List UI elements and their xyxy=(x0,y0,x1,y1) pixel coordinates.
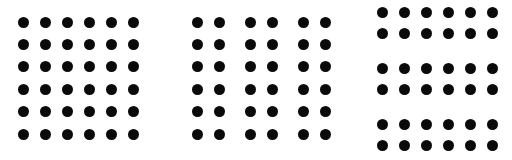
dot xyxy=(399,119,410,130)
dot xyxy=(465,140,476,151)
dot xyxy=(377,7,388,18)
dot xyxy=(465,28,476,39)
dot xyxy=(465,84,476,95)
dot xyxy=(377,28,388,39)
dot xyxy=(421,119,432,130)
dot xyxy=(421,28,432,39)
dot xyxy=(443,28,454,39)
dot xyxy=(399,63,410,74)
dot xyxy=(443,140,454,151)
panel-row-grouped-grid xyxy=(0,0,512,160)
dot xyxy=(443,119,454,130)
dot-grid-figure xyxy=(0,0,512,160)
dot xyxy=(421,84,432,95)
dot xyxy=(399,84,410,95)
dot xyxy=(421,140,432,151)
dot xyxy=(377,84,388,95)
dot xyxy=(399,140,410,151)
dot xyxy=(487,140,498,151)
dot xyxy=(487,28,498,39)
dot xyxy=(399,7,410,18)
dot xyxy=(487,63,498,74)
dot xyxy=(487,7,498,18)
dot xyxy=(399,28,410,39)
dot xyxy=(377,119,388,130)
dot xyxy=(443,7,454,18)
dot xyxy=(377,63,388,74)
dot xyxy=(421,7,432,18)
dot xyxy=(465,63,476,74)
dot xyxy=(465,119,476,130)
dot xyxy=(465,7,476,18)
dot xyxy=(421,63,432,74)
dot xyxy=(443,63,454,74)
dot xyxy=(443,84,454,95)
dot xyxy=(487,84,498,95)
dot xyxy=(377,140,388,151)
dot xyxy=(487,119,498,130)
